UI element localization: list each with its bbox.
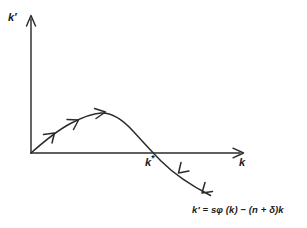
steady-state-label: k* xyxy=(145,157,155,168)
steady-state-asterisk: * xyxy=(151,153,155,163)
production-curve xyxy=(31,113,211,196)
x-axis-label: k xyxy=(239,157,245,168)
figure-canvas: k′ k k* k′ = sφ (k) − (n + δ)k xyxy=(0,0,307,228)
phase-diagram-graphic xyxy=(0,0,307,228)
y-axis-label: k′ xyxy=(8,12,17,23)
curve-equation-label: k′ = sφ (k) − (n + δ)k xyxy=(192,205,284,215)
flow-arrow-4-icon xyxy=(179,163,190,174)
